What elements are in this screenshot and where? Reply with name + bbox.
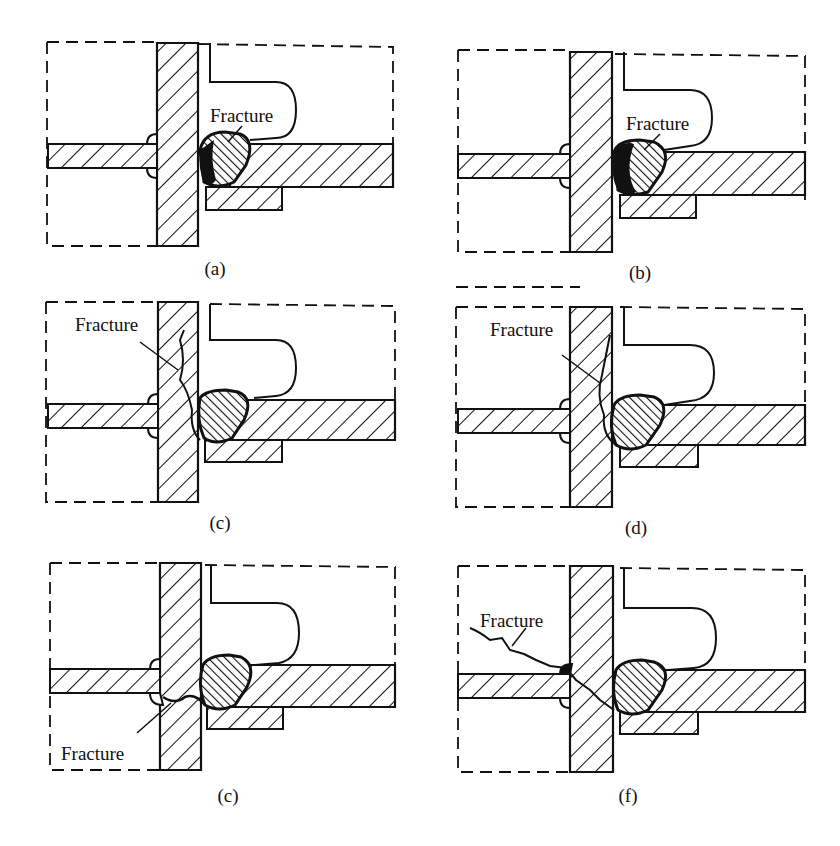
panel-caption: (c) — [198, 785, 258, 807]
panel-b: Fracture (b) — [450, 40, 840, 310]
panel-f: Fracture (f) — [450, 560, 840, 830]
joint-diagram-a — [40, 30, 420, 260]
fracture-label: Fracture — [480, 610, 543, 632]
panel-caption: (c) — [190, 512, 250, 534]
fracture-label: Fracture — [490, 319, 553, 341]
left-flange — [48, 144, 157, 168]
fracture-label: Fracture — [75, 314, 138, 336]
joint-diagram-b — [450, 40, 830, 270]
panel-caption: (a) — [185, 258, 245, 280]
fracture-label: Fracture — [61, 743, 124, 765]
fracture-label: Fracture — [210, 105, 273, 127]
panel-caption: (b) — [610, 262, 670, 284]
panel-e: Fracture (c) — [45, 555, 445, 825]
backing-strip — [206, 187, 282, 210]
left-weld-bottom — [147, 168, 157, 178]
panel-c: Fracture (c) — [40, 290, 440, 560]
panel-d: Fracture (d) — [450, 295, 840, 565]
panel-caption: (d) — [606, 517, 666, 539]
joint-diagram-f — [450, 560, 830, 790]
left-weld-top — [147, 134, 157, 144]
vertical-plate — [157, 43, 198, 246]
panel-caption: (f) — [598, 785, 658, 807]
right-plate — [230, 144, 393, 187]
panel-a: Fracture (a) — [40, 30, 440, 300]
fracture-label: Fracture — [626, 113, 689, 135]
